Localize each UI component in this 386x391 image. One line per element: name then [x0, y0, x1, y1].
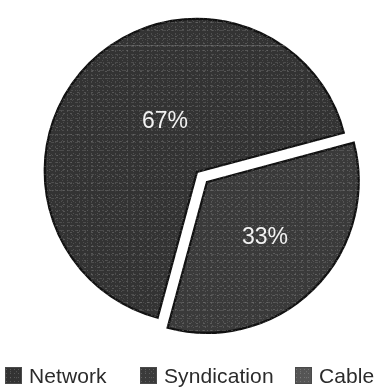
legend-label-syndication: Syndication [164, 365, 274, 386]
pie-chart-figure: 67% 33% Network Syndication Cable [0, 0, 386, 391]
legend-swatch-cable-icon [295, 367, 312, 384]
legend-item-network[interactable]: Network [5, 360, 107, 391]
pie-plot-area: 67% 33% [0, 0, 386, 346]
pie-label-network: 67% [142, 107, 188, 133]
legend-swatch-syndication-icon [140, 367, 157, 384]
legend-label-cable: Cable [319, 365, 374, 386]
legend-item-cable[interactable]: Cable [295, 360, 374, 391]
pie-label-syndication: 33% [242, 223, 288, 249]
pie-svg: 67% 33% [0, 0, 386, 346]
legend-item-syndication[interactable]: Syndication [140, 360, 274, 391]
legend-label-network: Network [29, 365, 107, 386]
legend-swatch-network-icon [5, 367, 22, 384]
chart-legend: Network Syndication Cable [0, 360, 386, 391]
